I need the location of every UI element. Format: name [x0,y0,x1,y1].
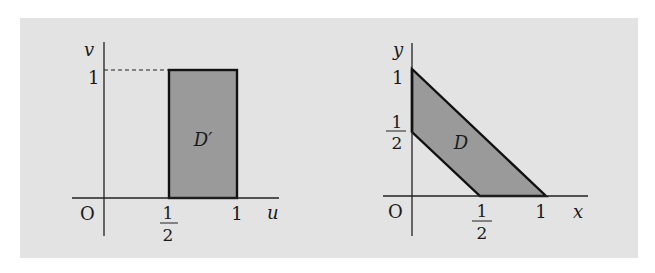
u-tick-1: 1 [231,203,242,224]
x-tick-half: 1 2 [472,201,492,243]
origin-label-left: O [80,203,95,224]
figure-canvas: v 1 O 1 2 1 u D′ y 1 1 2 O 1 2 1 [0,0,655,273]
right-plot: y 1 1 2 O 1 2 1 x D [383,39,588,243]
region-label-d-prime: D′ [193,129,213,150]
x-axis-label: x [573,201,583,222]
u-tick-half: 1 2 [160,203,178,245]
u-axis-label: u [267,202,279,223]
svg-text:2: 2 [477,223,488,243]
svg-text:2: 2 [163,225,174,245]
region-label-d: D [453,132,469,153]
y-tick-half: 1 2 [386,112,406,153]
svg-text:2: 2 [392,133,403,153]
y-tick-1: 1 [392,67,403,88]
svg-text:1: 1 [163,203,174,223]
v-axis-label: v [84,39,94,60]
v-tick-1: 1 [88,67,99,88]
x-tick-1: 1 [535,201,546,222]
region-d [412,69,546,196]
origin-label-right: O [388,201,403,222]
svg-text:1: 1 [477,201,488,221]
svg-text:1: 1 [392,112,403,132]
y-axis-label: y [392,39,404,60]
left-plot: v 1 O 1 2 1 u D′ [72,39,279,245]
